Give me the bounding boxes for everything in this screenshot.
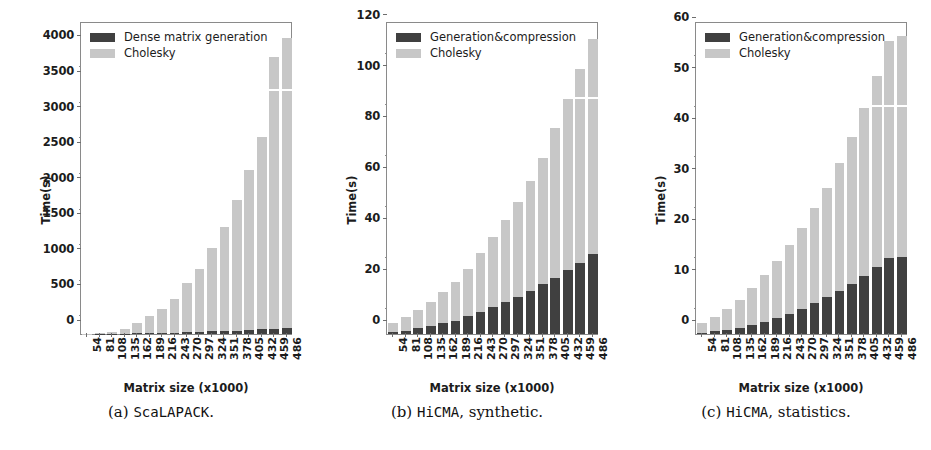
bar-c-270 <box>797 228 807 334</box>
bar-segment-generation <box>897 257 907 334</box>
plot-area-b: Time(s)020406080100120Generation&compres… <box>312 0 622 400</box>
x-tick-label: 378 <box>547 337 560 360</box>
bar-b-432 <box>563 99 573 334</box>
bar-segment-cholesky <box>897 36 907 257</box>
x-tick-label: 486 <box>597 337 610 360</box>
bar-segment-generation <box>413 328 423 334</box>
bar-b-270 <box>488 237 498 334</box>
y-minor-tick-c <box>694 308 696 309</box>
x-tick-label: 81 <box>104 337 117 352</box>
x-tick-mark <box>286 333 287 337</box>
y-minor-tick-b <box>385 308 387 309</box>
bar-segment-cholesky <box>426 302 436 326</box>
bar-segment-cholesky <box>550 128 560 278</box>
bar-a-486 <box>282 38 292 334</box>
y-tick-label-c: 20 <box>673 212 696 226</box>
axes-frame-c: 0102030405060Generation&compressionChole… <box>695 22 907 335</box>
x-tick-mark <box>751 333 752 337</box>
x-axis-ticks-a: 5481108135162189216243270297324351378405… <box>80 337 292 385</box>
x-axis-label-a: Matrix size (x1000) <box>80 381 292 395</box>
x-tick-mark <box>492 333 493 337</box>
x-tick-label: 189 <box>154 337 167 360</box>
bar-segment-cholesky <box>563 99 573 271</box>
x-tick-mark <box>851 333 852 337</box>
bar-segment-cholesky <box>451 282 461 321</box>
y-minor-tick-a <box>79 137 81 138</box>
bar-segment-generation <box>575 263 585 334</box>
y-tick-label-a: 3500 <box>43 64 81 78</box>
y-minor-tick-a <box>79 280 81 281</box>
x-tick-mark <box>248 333 249 337</box>
x-tick-mark <box>567 333 568 337</box>
bar-segment-cholesky <box>735 300 745 328</box>
x-tick-label: 243 <box>485 337 498 360</box>
bar-segment-cholesky <box>488 237 498 307</box>
legend-item: Cholesky <box>396 45 576 61</box>
bar-segment-generation <box>476 312 486 334</box>
legend-item: Generation&compression <box>705 29 885 45</box>
x-tick-label: 216 <box>166 337 179 360</box>
caption-prefix: (c) <box>701 403 721 421</box>
bar-segment-cholesky <box>170 299 180 332</box>
bar-segment-cholesky <box>538 158 548 284</box>
x-tick-label: 459 <box>584 337 597 360</box>
legend-swatch-icon <box>396 49 421 58</box>
bar-segment-cholesky <box>120 329 130 334</box>
bar-b-459 <box>575 69 585 334</box>
bar-segment-cholesky <box>107 332 117 334</box>
x-tick-mark <box>273 333 274 337</box>
bar-segment-generation <box>170 333 180 334</box>
bar-segment-cholesky <box>463 269 473 316</box>
bar-segment-cholesky <box>413 310 423 329</box>
y-minor-tick-c <box>694 55 696 56</box>
bar-segment-cholesky <box>884 41 894 258</box>
bar-c-162 <box>747 288 757 334</box>
bar-b-189 <box>451 282 461 334</box>
x-tick-label: 135 <box>435 337 448 360</box>
bar-segment-generation <box>145 333 155 334</box>
bar-c-135 <box>735 300 745 334</box>
bar-segment-generation <box>847 284 857 334</box>
legend-swatch-icon <box>705 49 730 58</box>
x-tick-mark <box>789 333 790 337</box>
x-tick-label: 216 <box>781 337 794 360</box>
bar-segment-cholesky <box>526 181 536 290</box>
bar-b-108 <box>413 310 423 334</box>
bar-segment-cholesky <box>182 283 192 332</box>
caption-subject: HiCMA <box>726 404 768 420</box>
bar-a-216 <box>157 309 167 334</box>
bar-c-243 <box>785 245 795 334</box>
x-tick-mark <box>430 333 431 337</box>
x-tick-mark <box>764 333 765 337</box>
bar-a-432 <box>257 137 267 334</box>
y-tick-label-b: 20 <box>364 262 387 276</box>
bar-b-162 <box>438 292 448 334</box>
bar-a-297 <box>195 269 205 334</box>
bar-segment-cholesky <box>772 261 782 318</box>
bar-segment-cholesky <box>859 108 869 276</box>
bar-segment-generation <box>760 322 770 334</box>
bar-segment-generation <box>513 297 523 334</box>
caption-b: (b) HiCMA, synthetic. <box>312 403 622 421</box>
bar-segment-cholesky <box>835 163 845 291</box>
x-tick-mark <box>801 333 802 337</box>
legend-label: Dense matrix generation <box>124 30 268 44</box>
bar-c-378 <box>847 137 857 334</box>
x-tick-mark <box>136 333 137 337</box>
y-minor-tick-c <box>694 207 696 208</box>
y-tick-label-a: 500 <box>51 277 81 291</box>
legend-swatch-icon <box>705 33 730 42</box>
bar-segment-generation <box>822 297 832 334</box>
bar-segment-cholesky <box>501 220 511 303</box>
y-axis-label-b: Time(s) <box>345 176 359 225</box>
bar-segment-generation <box>257 329 267 334</box>
bar-segment-cholesky <box>244 170 254 330</box>
bar-segment-cholesky <box>847 137 857 283</box>
x-tick-label: 54 <box>397 337 410 352</box>
legend-item: Dense matrix generation <box>90 29 268 45</box>
x-tick-mark <box>504 333 505 337</box>
legend-label: Cholesky <box>739 46 791 60</box>
x-tick-mark <box>813 333 814 337</box>
bar-segment-cholesky <box>220 227 230 331</box>
bar-segment-generation <box>463 316 473 334</box>
